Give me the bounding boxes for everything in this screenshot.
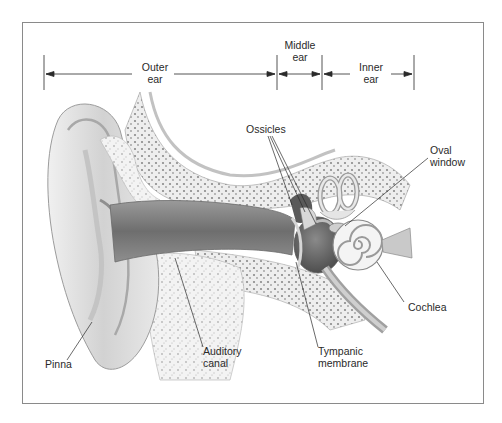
region-label-line: Inner [359,61,383,73]
region-label-line: Outer [142,61,168,73]
label-auditory-canal: Auditory canal [203,345,242,369]
region-label-line: ear [359,73,383,85]
ear-illustration [0,0,502,423]
label-line: canal [203,357,242,369]
region-label-line: ear [142,73,168,85]
label-oval-window: Oval window [430,144,465,168]
label-tympanic-membrane: Tympanic membrane [318,345,368,369]
region-label-line: ear [285,51,316,63]
region-label-line: Middle [285,39,316,51]
label-line: window [430,156,465,168]
label-line: Oval [430,144,465,156]
label-line: membrane [318,357,368,369]
label-line: Tympanic [318,345,368,357]
region-label-middle-ear: Middle ear [285,39,316,63]
label-line: Auditory [203,345,242,357]
label-ossicles: Ossicles [246,123,286,135]
region-label-outer-ear: Outer ear [142,61,168,85]
label-pinna: Pinna [45,358,72,370]
label-cochlea: Cochlea [408,301,447,313]
region-label-inner-ear: Inner ear [359,61,383,85]
